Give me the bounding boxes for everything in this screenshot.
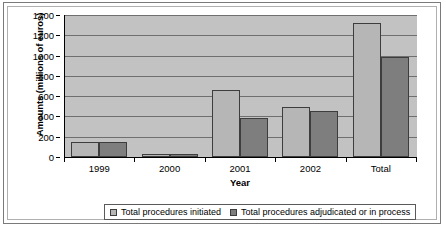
bar — [71, 142, 99, 157]
y-tick-mark — [56, 116, 60, 117]
legend-label: Total procedures adjudicated or in proce… — [241, 207, 410, 217]
x-tick-mark — [275, 157, 276, 162]
x-tick-label: 2000 — [134, 163, 204, 174]
legend-entry: Total procedures initiated — [110, 207, 221, 217]
bar — [212, 90, 240, 157]
bar — [282, 107, 310, 157]
x-tick-label: 1999 — [64, 163, 134, 174]
y-tick-label: 600 — [38, 91, 54, 102]
bar-group — [276, 15, 346, 157]
x-tick-label: Total — [346, 163, 416, 174]
chart-figure-frame: Amounts (millions of euros) 140012001000… — [3, 2, 441, 224]
y-tick-mark — [56, 137, 60, 138]
bar-groups — [65, 15, 417, 157]
y-tick-mark — [56, 35, 60, 36]
y-tick-label: 400 — [38, 111, 54, 122]
x-tick-mark — [134, 157, 135, 162]
y-tick-mark — [56, 15, 60, 16]
plot-area — [64, 15, 417, 158]
legend-label: Total procedures initiated — [121, 207, 221, 217]
legend-swatch-icon — [230, 209, 237, 216]
bar — [240, 118, 268, 157]
bar-group — [135, 15, 205, 157]
bar — [310, 111, 338, 157]
bar-group — [206, 15, 276, 157]
bar-group — [65, 15, 135, 157]
y-tick-mark — [56, 56, 60, 57]
chart-legend: Total procedures initiatedTotal procedur… — [104, 204, 416, 220]
x-axis-labels: 1999200020012002Total — [64, 163, 416, 174]
y-tick-mark — [56, 96, 60, 97]
y-tick-label: 0 — [49, 152, 54, 163]
x-axis-title: Year — [64, 177, 416, 188]
x-tick-mark — [346, 157, 347, 162]
bar — [381, 57, 409, 157]
plot-area-wrapper: 1400120010008006004002000 19992000200120… — [32, 15, 422, 167]
y-tick-label: 800 — [38, 70, 54, 81]
chart-figure-inner-frame: Amounts (millions of euros) 140012001000… — [7, 6, 437, 220]
y-tick-mark — [56, 76, 60, 77]
x-tick-mark — [64, 157, 65, 162]
y-tick-label: 1200 — [33, 30, 54, 41]
x-tick-mark — [416, 157, 417, 162]
legend-swatch-icon — [110, 209, 117, 216]
y-tick-label: 1000 — [33, 50, 54, 61]
bar — [99, 142, 127, 157]
x-tick-label: 2002 — [275, 163, 345, 174]
y-tick-label: 200 — [38, 131, 54, 142]
legend-entry: Total procedures adjudicated or in proce… — [230, 207, 410, 217]
bar — [353, 23, 381, 157]
bar-group — [347, 15, 417, 157]
x-tick-label: 2001 — [205, 163, 275, 174]
y-tick-label: 1400 — [33, 10, 54, 21]
y-axis-ticks: 1400120010008006004002000 — [32, 15, 60, 157]
y-tick-mark — [56, 157, 60, 158]
x-tick-mark — [205, 157, 206, 162]
